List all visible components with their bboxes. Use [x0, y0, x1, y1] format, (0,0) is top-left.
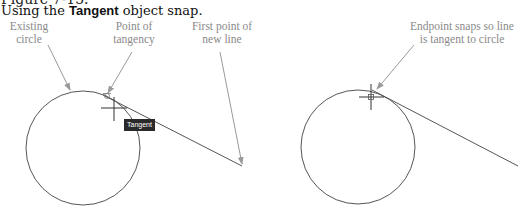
tangent-line-result: [372, 90, 518, 166]
cad-drawing: [0, 0, 525, 206]
circle-result: [301, 90, 415, 204]
leader-arrow-point-of-tangency: [108, 52, 132, 93]
tangent-tooltip: Tangent: [124, 119, 155, 131]
leader-arrow-first-point: [220, 52, 242, 164]
crosshair-cursor-icon: [101, 97, 127, 121]
leader-arrow-existing-circle: [48, 45, 70, 90]
crosshair-cursor-icon: [359, 84, 384, 110]
leader-arrow-endpoint: [377, 45, 414, 89]
